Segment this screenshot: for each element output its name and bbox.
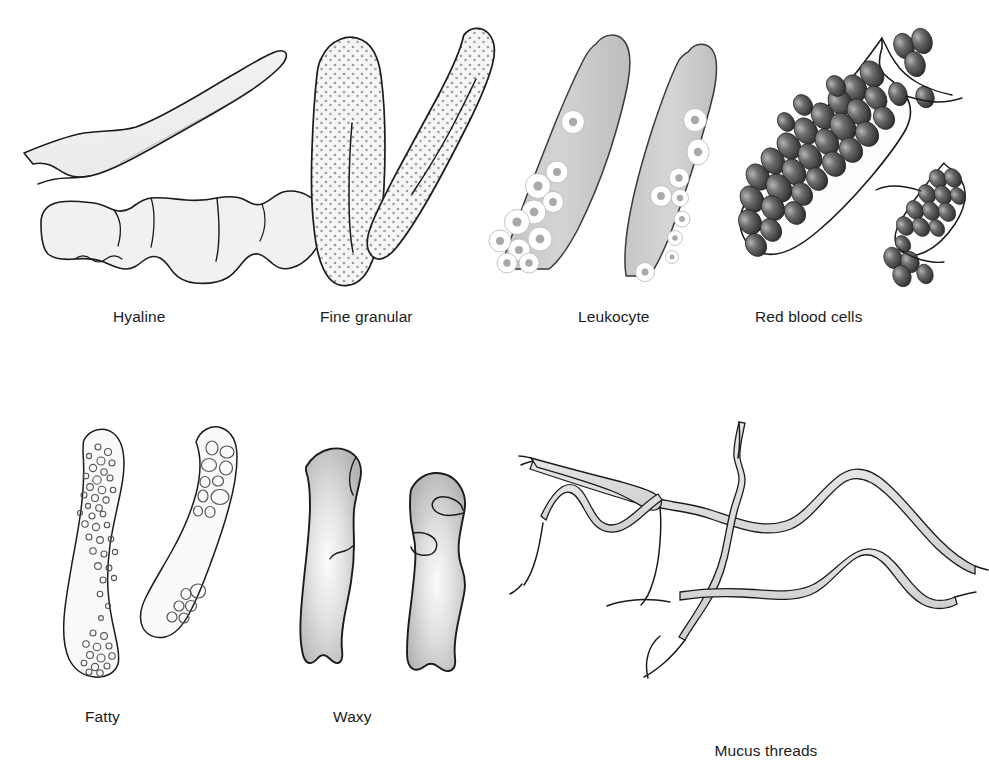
- casts-illustration: [0, 0, 989, 762]
- label-fatty: Fatty: [85, 707, 120, 726]
- label-waxy: Waxy: [333, 707, 372, 726]
- label-mucus-threads: Mucus threads resembling casts: [666, 702, 866, 762]
- fine-granular-casts-group: [311, 28, 494, 285]
- fatty-casts-group: [64, 427, 237, 677]
- hyaline-casts-group: [24, 51, 350, 285]
- label-fine-granular: Fine granular: [320, 307, 413, 326]
- fatty-cast-right: [141, 427, 237, 638]
- mucus-thread-tail-7: [975, 566, 988, 570]
- mucus-thread-tail-6: [607, 600, 670, 606]
- label-leukocyte: Leukocyte: [578, 307, 650, 326]
- mucus-thread-ribbon-3: [679, 422, 745, 640]
- urinary-casts-figure: Hyaline Fine granular Leukocyte Red bloo…: [0, 0, 989, 762]
- fatty-cast-left: [64, 429, 124, 677]
- mucus-thread-tail-3: [644, 640, 685, 677]
- hyaline-cast-upper-crease: [38, 176, 90, 184]
- red-blood-cell-casts-group: [734, 25, 969, 289]
- mucus-thread-tail-1: [524, 523, 543, 585]
- mucus-thread-tail-8: [510, 584, 522, 594]
- mucus-threads-group: [510, 422, 988, 678]
- waxy-cast-right: [407, 473, 465, 671]
- rbc-cast-small-tail-upper: [876, 186, 921, 191]
- hyaline-cast-lower-body: [41, 191, 324, 283]
- label-red-blood-cells: Red blood cells: [755, 307, 862, 326]
- waxy-casts-group: [300, 448, 465, 671]
- mucus-thread-tail-9: [955, 592, 976, 597]
- leukocyte-casts-group: [489, 35, 717, 281]
- hyaline-cast-upper: [24, 51, 286, 177]
- waxy-cast-left: [300, 448, 361, 663]
- mucus-thread-tail-10: [519, 456, 531, 458]
- fine-granular-cast-right: [367, 28, 494, 259]
- mucus-thread-tail-2: [641, 507, 661, 605]
- label-hyaline: Hyaline: [113, 307, 165, 326]
- label-mucus-threads-line-1: Mucus threads: [666, 741, 866, 761]
